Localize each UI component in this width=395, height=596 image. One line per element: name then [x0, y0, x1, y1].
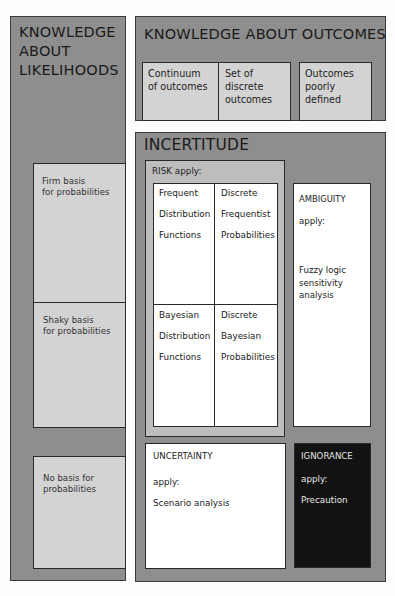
likelihoods-title-line: ABOUT [19, 42, 119, 61]
outcome-poorly-defined-box: Outcomes poorly defined [299, 62, 372, 121]
cell-line: Probabilities [221, 352, 275, 362]
label-line: of outcomes [148, 80, 207, 93]
label-line: Set of [225, 67, 272, 80]
cell-line: Bayesian [159, 310, 199, 320]
incertitude-title: INCERTITUDE [144, 136, 249, 155]
likelihoods-title-line: KNOWLEDGE [19, 23, 119, 42]
method-line: Fuzzy logic [299, 264, 346, 277]
no-basis-label: No basis for probabilities [43, 473, 96, 495]
ignorance-label: IGNORANCE [301, 451, 353, 461]
ignorance-apply: apply: [301, 474, 328, 484]
outcome-discrete-box: Set of discrete outcomes [218, 62, 291, 121]
cell-line: Discrete [221, 310, 257, 320]
method-line: analysis [299, 289, 346, 302]
risk-cell-discrete-bayesian: Discrete Bayesian Probabilities [215, 305, 278, 426]
outcome-discrete-label: Set of discrete outcomes [225, 67, 272, 106]
label-line: probabilities [43, 484, 96, 495]
firm-basis-label: Firm basis for probabilities [42, 176, 109, 198]
outcome-continuum-box: Continuum of outcomes [142, 62, 219, 121]
label-line: Continuum [148, 67, 207, 80]
label-line: Outcomes [305, 67, 354, 80]
cell-line: Bayesian [221, 331, 261, 341]
cell-line: Distribution [159, 331, 210, 341]
label-line: outcomes [225, 93, 272, 106]
label-line: discrete [225, 80, 272, 93]
ambiguity-apply: apply: [299, 216, 325, 226]
label-line: poorly [305, 80, 354, 93]
ambiguity-box: AMBIGUITY apply: Fuzzy logic sensitivity… [293, 183, 371, 427]
risk-cell-bayesian-distribution: Bayesian Distribution Functions [153, 305, 214, 426]
ambiguity-label: AMBIGUITY [299, 194, 346, 204]
cell-line: Functions [159, 352, 201, 362]
risk-cell-discrete-frequentist: Discrete Frequentist Probabilities [215, 183, 278, 304]
label-line: for probabilities [42, 187, 109, 198]
uncertainty-method: Scenario analysis [153, 498, 230, 508]
shaky-basis-box: Shaky basis for probabilities [33, 302, 126, 428]
label-line: No basis for [43, 473, 96, 484]
uncertainty-apply: apply: [153, 477, 180, 487]
risk-label: RISK apply: [152, 166, 201, 176]
likelihoods-title-line: LIKELIHOODS [19, 61, 119, 80]
label-line: Firm basis [42, 176, 109, 187]
method-line: sensitivity [299, 277, 346, 290]
firm-basis-box: Firm basis for probabilities [33, 163, 126, 303]
shaky-basis-label: Shaky basis for probabilities [43, 315, 110, 337]
cell-line: Frequent [159, 188, 198, 198]
ignorance-box: IGNORANCE apply: Precaution [294, 443, 371, 568]
uncertainty-label: UNCERTAINTY [153, 451, 212, 461]
ambiguity-method: Fuzzy logic sensitivity analysis [299, 264, 346, 302]
likelihoods-title: KNOWLEDGE ABOUT LIKELIHOODS [19, 23, 119, 80]
cell-line: Distribution [159, 209, 210, 219]
cell-line: Discrete [221, 188, 257, 198]
cell-line: Probabilities [221, 230, 275, 240]
outcome-continuum-label: Continuum of outcomes [148, 67, 207, 93]
outcome-poorly-defined-label: Outcomes poorly defined [305, 67, 354, 106]
outcomes-title: KNOWLEDGE ABOUT OUTCOMES [144, 25, 386, 44]
ignorance-method: Precaution [301, 495, 348, 505]
label-line: for probabilities [43, 326, 110, 337]
risk-cell-frequent-distribution: Frequent Distribution Functions [153, 183, 214, 304]
no-basis-box: No basis for probabilities [33, 456, 126, 569]
label-line: Shaky basis [43, 315, 110, 326]
uncertainty-box: UNCERTAINTY apply: Scenario analysis [145, 443, 286, 569]
cell-line: Functions [159, 230, 201, 240]
label-line: defined [305, 93, 354, 106]
cell-line: Frequentist [221, 209, 270, 219]
